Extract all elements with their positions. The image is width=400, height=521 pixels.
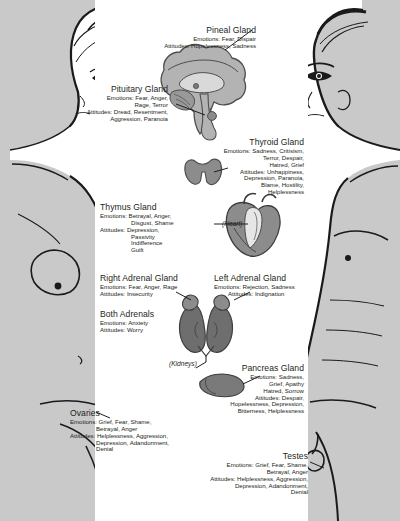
label-ovaries: Ovaries Emotions: Grief, Fear, Shame, Be… <box>70 409 208 453</box>
label-pineal-line-1: Attitudes: Hopelessness, Sadness <box>128 43 256 50</box>
caption-heart: (Heart) <box>222 220 243 227</box>
label-thyroid-line-6: Helplessness <box>186 189 304 196</box>
caption-kidneys: (Kidneys) <box>169 360 197 367</box>
label-pituitary-line-3: Aggression, Paranoia <box>46 116 168 123</box>
label-both-adrenals: Both Adrenals Emotions: Anxiety Attitude… <box>100 310 206 334</box>
label-thymus-line-2: Attitudes: Depression, <box>100 227 220 234</box>
label-thymus: Thymus Gland Emotions: Betrayal, Anger, … <box>100 203 220 254</box>
label-right-adrenal: Right Adrenal Gland Emotions: Fear, Ange… <box>100 274 210 298</box>
label-pineal: Pineal Gland Emotions: Fear, Dispair Att… <box>128 26 256 50</box>
label-testes-line-3: Depression, Adandonment, <box>168 483 308 490</box>
label-testes-line-4: Denial <box>168 489 308 496</box>
label-left-adrenal-line-1: Attitudes: Indignation <box>214 291 326 298</box>
label-pituitary: Pituitary Gland Emotions: Fear, Anger, R… <box>46 85 168 122</box>
label-thymus-line-4: Indifference <box>100 240 220 247</box>
label-pancreas-line-5: Bitterness, Helplessness <box>198 408 304 415</box>
label-ovaries-line-0: Emotions: Grief, Fear, Shame, <box>70 419 208 426</box>
label-both-adrenals-line-1: Attitudes: Worry <box>100 327 206 334</box>
label-testes: Testes Emotions: Grief, Fear, Shame, Bet… <box>168 452 308 496</box>
label-thymus-line-5: Guilt <box>100 247 220 254</box>
label-pancreas: Pancreas Gland Emotions: Sadness, Grief,… <box>198 364 304 415</box>
label-left-adrenal: Left Adrenal Gland Emotions: Rejection, … <box>214 274 326 298</box>
diagram-canvas: Pineal Gland Emotions: Fear, Dispair Att… <box>0 0 400 521</box>
label-thyroid: Thyroid Gland Emotions: Sadness, Critisi… <box>186 138 304 196</box>
label-right-adrenal-line-1: Attitudes: Insecurity <box>100 291 210 298</box>
label-ovaries-line-3: Depression, Adandonment, <box>70 440 208 447</box>
